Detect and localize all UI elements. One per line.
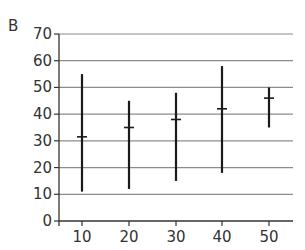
y-tick-label: 60	[33, 52, 52, 70]
y-tick-label: 50	[33, 78, 52, 96]
y-tick-labels: 010203040506070	[33, 25, 52, 230]
y-tick-label: 40	[33, 105, 52, 123]
x-tick-label: 30	[166, 228, 185, 246]
y-tick-label: 10	[33, 185, 52, 203]
x-tick-label: 20	[119, 228, 138, 246]
x-tick-label: 50	[259, 228, 278, 246]
y-tick-label: 30	[33, 132, 52, 150]
y-tick-label: 70	[33, 25, 52, 43]
y-tick-label: 0	[42, 212, 52, 230]
x-tick-label: 10	[72, 228, 91, 246]
range-bars	[77, 66, 274, 192]
x-tick-label: 40	[212, 228, 231, 246]
axes	[54, 34, 293, 226]
range-chart: 010203040506070 1020304050	[0, 0, 305, 250]
y-tick-label: 20	[33, 159, 52, 177]
x-tick-labels: 1020304050	[72, 228, 278, 246]
